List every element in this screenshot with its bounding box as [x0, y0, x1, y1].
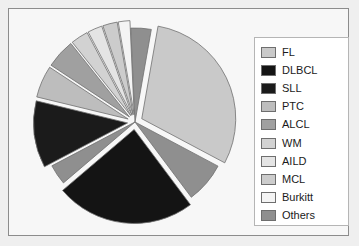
legend-item[interactable]: Burkitt — [261, 189, 348, 207]
legend-swatch-icon — [261, 65, 276, 76]
legend-item[interactable]: ALCL — [261, 116, 348, 134]
legend-swatch-icon — [261, 83, 276, 94]
plot-area: FLDLBCLSLLPTCALCLWMAILDMCLBurkittOthers — [18, 18, 357, 244]
figure-frame: FLDLBCLSLLPTCALCLWMAILDMCLBurkittOthers — [8, 8, 349, 236]
legend-swatch-icon — [261, 174, 276, 185]
legend-swatch-icon — [261, 210, 276, 221]
legend-item-label: PTC — [282, 101, 304, 112]
legend-swatch-icon — [261, 156, 276, 167]
legend-item-label: MCL — [282, 174, 305, 185]
figure-canvas: FLDLBCLSLLPTCALCLWMAILDMCLBurkittOthers — [0, 0, 359, 246]
legend-item[interactable]: WM — [261, 134, 348, 152]
legend-swatch-icon — [261, 192, 276, 203]
legend-item-label: ALCL — [282, 119, 310, 130]
legend-item-label: WM — [282, 138, 302, 149]
legend-swatch-icon — [261, 138, 276, 149]
legend-item-label: AILD — [282, 156, 306, 167]
legend-item-label: DLBCL — [282, 65, 317, 76]
legend-item-label: Burkitt — [282, 192, 313, 203]
legend-item[interactable]: SLL — [261, 79, 348, 97]
legend-item-label: SLL — [282, 83, 302, 94]
legend-item[interactable]: MCL — [261, 170, 348, 188]
legend-item[interactable]: FL — [261, 43, 348, 61]
legend-item[interactable]: DLBCL — [261, 61, 348, 79]
legend-item[interactable]: Others — [261, 207, 348, 225]
legend-box: FLDLBCLSLLPTCALCLWMAILDMCLBurkittOthers — [254, 37, 349, 226]
legend-swatch-icon — [261, 101, 276, 112]
legend-swatch-icon — [261, 119, 276, 130]
legend-swatch-icon — [261, 47, 276, 58]
legend-item[interactable]: AILD — [261, 152, 348, 170]
legend-item-label: FL — [282, 47, 295, 58]
legend-item[interactable]: PTC — [261, 98, 348, 116]
legend-item-label: Others — [282, 210, 315, 221]
